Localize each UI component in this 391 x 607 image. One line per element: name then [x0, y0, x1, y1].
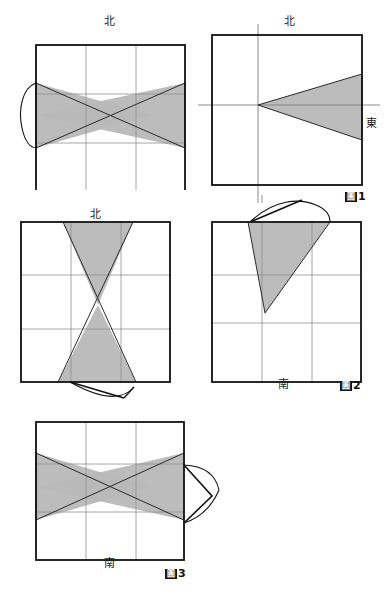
panel-4-drawing — [190, 195, 391, 395]
label-east-panel-2: 東 — [366, 118, 377, 129]
label-north-panel-2: 北 — [284, 16, 295, 27]
shade-upper-triangle — [63, 222, 133, 305]
panel-1-drawing — [0, 10, 200, 190]
caption-figure-2-number: 2 — [353, 379, 361, 392]
label-south-panel-5: 南 — [104, 558, 115, 569]
panel-3-drawing — [0, 205, 200, 405]
panel-5-bottom-left: 南 — [0, 410, 230, 570]
panel-5-drawing — [0, 410, 230, 570]
label-north-panel-3: 北 — [90, 209, 101, 220]
shade-down-triangle — [248, 222, 330, 313]
caption-figure-2: 圖2 — [340, 380, 361, 391]
flap-outline-right — [184, 465, 219, 523]
fig-mark-icon-3: 圖 — [165, 569, 177, 579]
shade-east-triangle — [258, 74, 362, 140]
figure-sheet: 北 北 東 圖1 — [0, 0, 391, 607]
caption-figure-3-number: 3 — [178, 567, 186, 580]
panel-1-top-left: 北 — [0, 10, 200, 190]
flap-outline-left — [21, 83, 37, 148]
panel-2-top-right: 北 東 — [190, 10, 391, 205]
label-south-panel-4: 南 — [278, 379, 289, 390]
panel-3-middle-left: 北 — [0, 205, 200, 405]
fig-mark-icon-2: 圖 — [340, 381, 352, 391]
caption-figure-3: 圖3 — [165, 568, 186, 579]
label-north-panel-1: 北 — [104, 16, 115, 27]
shade-lower-triangle — [58, 305, 136, 382]
panel-2-drawing — [190, 10, 391, 205]
panel-4-middle-right: 南 — [190, 195, 391, 395]
